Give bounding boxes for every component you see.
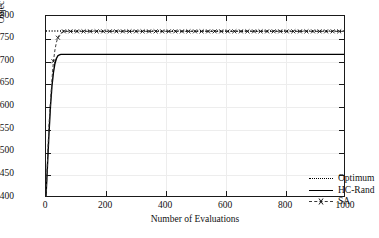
x-tick-label: 800 bbox=[265, 201, 305, 211]
series-layer bbox=[46, 16, 344, 197]
plot-area: Optimum HC-Rand SA bbox=[45, 15, 345, 197]
legend-swatch-optimum bbox=[308, 173, 334, 184]
y-tick-label: 550 bbox=[0, 124, 14, 134]
legend-label: SA bbox=[338, 196, 350, 208]
chart-legend: Optimum HC-Rand SA bbox=[308, 173, 379, 208]
series-line-sa bbox=[46, 31, 344, 196]
y-tick-label: 700 bbox=[0, 56, 14, 66]
legend-label: Optimum bbox=[338, 173, 374, 185]
y-tick-label: 600 bbox=[0, 101, 14, 111]
legend-item-optimum: Optimum bbox=[308, 173, 379, 185]
x-tick-label: 0 bbox=[25, 201, 65, 211]
legend-item-sa: SA bbox=[308, 196, 379, 208]
series-markers-sa bbox=[51, 29, 341, 63]
legend-item-hc-rand: HC-Rand bbox=[308, 185, 379, 197]
x-axis-title: Number of Evaluations bbox=[45, 214, 345, 224]
legend-swatch-sa bbox=[308, 196, 334, 207]
x-tick-label: 200 bbox=[85, 201, 125, 211]
y-tick-label: 400 bbox=[0, 192, 14, 202]
y-axis-title: Objective Value bbox=[0, 0, 6, 48]
x-tick-label: 400 bbox=[145, 201, 185, 211]
y-tick-label: 450 bbox=[0, 169, 14, 179]
legend-label: HC-Rand bbox=[338, 185, 374, 197]
legend-swatch-hc-rand bbox=[308, 185, 334, 196]
y-tick-label: 500 bbox=[0, 146, 14, 156]
x-tick-label: 600 bbox=[205, 201, 245, 211]
y-tick-label: 650 bbox=[0, 78, 14, 88]
series-line-hc-rand bbox=[46, 54, 344, 196]
